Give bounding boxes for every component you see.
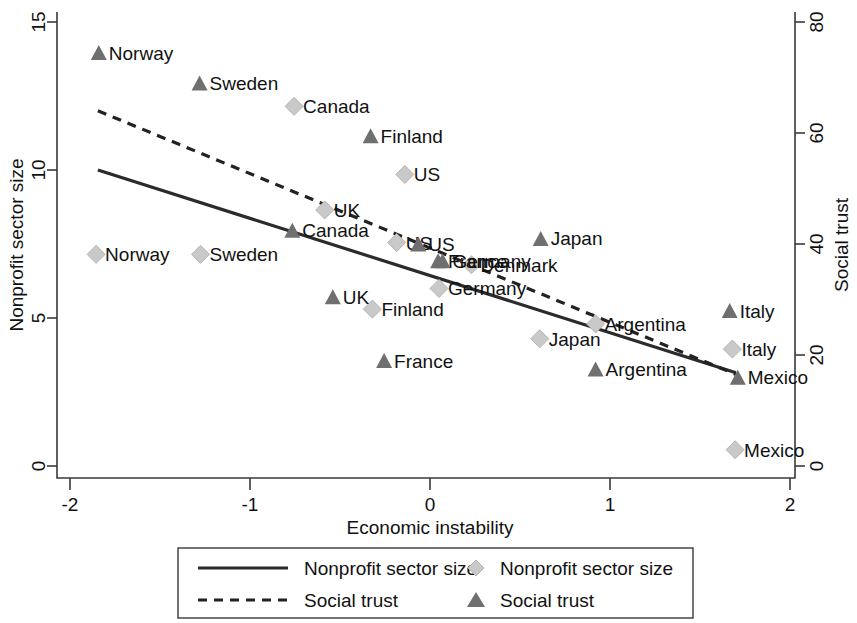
right-tick-label-0: 0 xyxy=(806,461,827,472)
triangle-marker xyxy=(192,76,208,91)
diamond-marker xyxy=(87,245,105,263)
right-axis-ticks xyxy=(795,22,805,466)
data-point-label: Germany xyxy=(448,278,527,299)
data-point: Sweden xyxy=(192,244,279,265)
data-point-label: Norway xyxy=(105,244,170,265)
data-point: Finland xyxy=(363,299,443,320)
scatter-markers-group: NorwaySwedenCanadaUKUSFinlandUSDenmarkGe… xyxy=(87,43,808,461)
triangle-marker xyxy=(363,128,379,143)
data-point-label: Italy xyxy=(740,301,775,322)
data-point-label: Sweden xyxy=(210,73,279,94)
data-point-label: Japan xyxy=(549,329,601,350)
diamond-marker xyxy=(396,165,414,183)
data-point-label: Finland xyxy=(381,299,443,320)
diamond-marker xyxy=(430,279,448,297)
legend-label-nonprofit-marker: Nonprofit sector size xyxy=(500,558,673,579)
data-point: Japan xyxy=(533,228,603,249)
data-point-label: France xyxy=(394,351,453,372)
left-tick-label-0: 0 xyxy=(28,461,49,472)
data-point-label: Canada xyxy=(302,220,369,241)
x-tick-label-neg2: -2 xyxy=(62,494,79,515)
data-point-label: Canada xyxy=(303,96,370,117)
right-axis-tick-labels: 80 60 40 20 0 xyxy=(806,11,827,471)
data-point-label: Germany xyxy=(453,251,532,272)
data-point-label: Italy xyxy=(741,339,776,360)
data-point: Canada xyxy=(284,220,369,241)
legend-label-nonprofit-line: Nonprofit sector size xyxy=(304,558,477,579)
x-axis-ticks xyxy=(70,478,790,490)
data-point: Italy xyxy=(722,301,775,322)
diamond-marker xyxy=(531,330,549,348)
triangle-marker xyxy=(376,353,392,368)
data-point: Mexico xyxy=(726,440,804,461)
data-point: Argentina xyxy=(588,359,688,380)
diamond-marker xyxy=(285,97,303,115)
data-point: UK xyxy=(316,200,361,221)
diamond-marker xyxy=(726,441,744,459)
data-point: France xyxy=(376,351,453,372)
triangle-marker xyxy=(91,45,107,60)
x-tick-label-1: 1 xyxy=(605,494,616,515)
data-point-label: US xyxy=(414,164,440,185)
data-point-label: Argentina xyxy=(605,314,687,335)
data-point-label: Argentina xyxy=(606,359,688,380)
data-point: Norway xyxy=(91,43,174,64)
left-tick-label-10: 10 xyxy=(28,159,49,180)
data-point-label: Sweden xyxy=(210,244,279,265)
x-axis-tick-labels: -2 -1 0 1 2 xyxy=(62,494,796,515)
chart-figure: 15 10 5 0 Nonprofit sector size 80 60 40… xyxy=(0,0,857,623)
data-point: Norway xyxy=(87,244,170,265)
triangle-marker xyxy=(722,303,738,318)
data-point: Sweden xyxy=(192,73,279,94)
data-point-label: Mexico xyxy=(744,440,804,461)
right-tick-label-80: 80 xyxy=(806,11,827,32)
data-point: Mexico xyxy=(730,367,808,388)
data-point-label: Finland xyxy=(381,126,443,147)
x-axis-title: Economic instability xyxy=(347,517,514,538)
data-point: Japan xyxy=(531,329,601,350)
data-point: Finland xyxy=(363,126,443,147)
triangle-marker xyxy=(533,231,549,246)
data-point: Canada xyxy=(285,96,370,117)
right-tick-label-40: 40 xyxy=(806,233,827,254)
left-tick-label-5: 5 xyxy=(28,313,49,324)
right-tick-label-20: 20 xyxy=(806,344,827,365)
left-axis-tick-labels: 15 10 5 0 xyxy=(28,11,49,471)
legend-label-socialtrust-line: Social trust xyxy=(304,590,399,611)
data-point-label: Japan xyxy=(551,228,603,249)
y-axis-right-title: Social trust xyxy=(831,197,852,292)
x-tick-label-2: 2 xyxy=(785,494,796,515)
data-point-label: Mexico xyxy=(748,367,808,388)
right-tick-label-60: 60 xyxy=(806,122,827,143)
diamond-marker xyxy=(316,201,334,219)
x-tick-label-neg1: -1 xyxy=(242,494,259,515)
triangle-marker xyxy=(325,289,341,304)
diamond-marker xyxy=(723,340,741,358)
data-point: US xyxy=(396,164,440,185)
diamond-marker xyxy=(388,234,406,252)
data-point-label: UK xyxy=(334,200,361,221)
fit-line-solid xyxy=(98,170,736,373)
left-axis-ticks xyxy=(47,22,57,466)
data-point: UK xyxy=(325,287,370,308)
x-tick-label-0: 0 xyxy=(425,494,436,515)
diamond-marker xyxy=(192,245,210,263)
data-point: Italy xyxy=(723,339,776,360)
triangle-marker xyxy=(588,361,604,376)
chart-legend: Nonprofit sector size Social trust Nonpr… xyxy=(178,548,693,618)
y-axis-left-title: Nonprofit sector size xyxy=(6,158,27,331)
left-tick-label-15: 15 xyxy=(28,11,49,32)
data-point-label: Norway xyxy=(109,43,174,64)
scatter-plot-svg: 15 10 5 0 Nonprofit sector size 80 60 40… xyxy=(0,0,857,623)
legend-label-socialtrust-marker: Social trust xyxy=(500,590,595,611)
data-point-label: UK xyxy=(343,287,370,308)
data-point: Argentina xyxy=(587,314,687,335)
